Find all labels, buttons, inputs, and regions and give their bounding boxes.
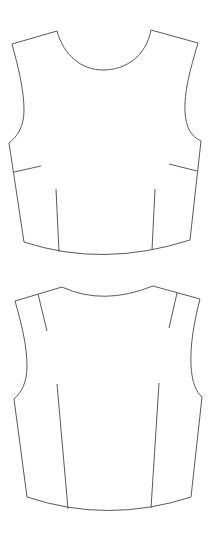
bodice-front-outline (9, 30, 201, 255)
bodice-back-outline (14, 286, 202, 511)
diagram-canvas: garment-technical-flat (0, 0, 214, 538)
bodice-flats (0, 0, 214, 538)
bodice-front (9, 30, 201, 255)
bodice-back (14, 286, 202, 511)
